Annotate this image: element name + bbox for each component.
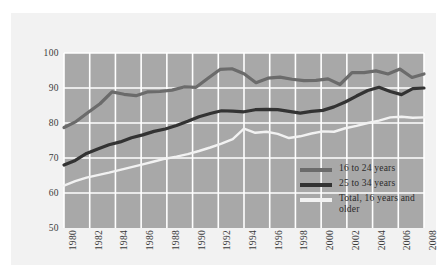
legend-item-label: 16 to 24 years	[339, 163, 395, 174]
x-axis-tick-label: 2000	[325, 230, 335, 250]
x-axis-tick-label: 1992	[222, 230, 232, 250]
series-line-2	[64, 87, 424, 165]
y-axis-tick-label: 100	[25, 48, 59, 58]
x-axis-tick-label: 1984	[119, 230, 129, 250]
x-axis: 1980198219841986198819901992199419961998…	[64, 230, 424, 277]
x-axis-tick-label: 1990	[197, 230, 207, 250]
chart-figure: 5060708090100 19801982198419861988199019…	[0, 0, 447, 277]
x-axis-tick-label: 2002	[351, 230, 361, 250]
legend-item[interactable]: Total, 16 years and older	[300, 193, 418, 215]
legend-item-label: Total, 16 years and older	[339, 193, 418, 215]
x-axis-tick-label: 1986	[145, 230, 155, 250]
y-axis-tick-label: 90	[25, 83, 59, 93]
y-axis-tick-label: 60	[25, 188, 59, 198]
x-axis-tick-label: 2008	[428, 230, 438, 250]
legend-item[interactable]: 25 to 34 years	[300, 178, 418, 189]
legend-color-swatch	[300, 183, 332, 187]
y-axis: 5060708090100	[19, 53, 59, 228]
x-axis-tick-label: 1998	[299, 230, 309, 250]
y-axis-tick-label: 70	[25, 153, 59, 163]
series-line-1	[64, 69, 424, 128]
legend-color-swatch	[300, 168, 332, 172]
x-axis-tick-label: 1988	[171, 230, 181, 250]
x-axis-tick-label: 1994	[248, 230, 258, 250]
x-axis-tick-label: 2004	[377, 230, 387, 250]
chart-frame: 5060708090100 19801982198419861988199019…	[11, 13, 436, 265]
legend-item-label: 25 to 34 years	[339, 178, 395, 189]
x-axis-tick-label: 1996	[274, 230, 284, 250]
x-axis-tick-label: 1980	[68, 230, 78, 250]
legend-item[interactable]: 16 to 24 years	[300, 163, 418, 174]
y-axis-tick-label: 50	[25, 223, 59, 233]
y-axis-tick-label: 80	[25, 118, 59, 128]
legend-color-swatch	[300, 198, 332, 202]
chart-legend: 16 to 24 years25 to 34 yearsTotal, 16 ye…	[300, 163, 418, 219]
x-axis-tick-label: 1982	[94, 230, 104, 250]
x-axis-tick-label: 2006	[402, 230, 412, 250]
